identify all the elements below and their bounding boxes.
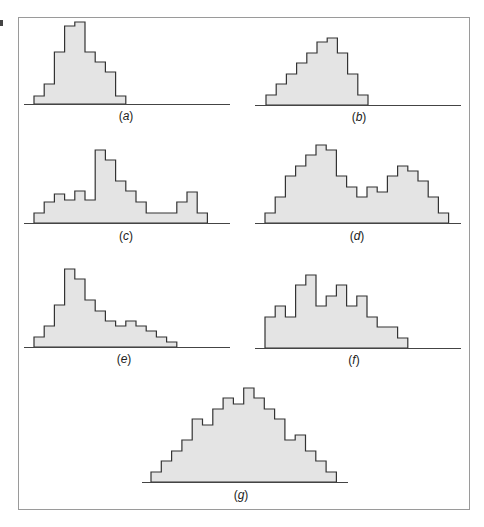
panel-label-g: (g)	[234, 488, 249, 502]
histogram-panels	[0, 0, 484, 527]
histogram-bars	[151, 388, 336, 482]
histogram-g	[142, 388, 348, 483]
histogram-bars	[34, 150, 207, 223]
histogram-f	[255, 275, 461, 349]
panel-label-c: (c)	[119, 229, 133, 243]
histogram-bars	[34, 269, 177, 347]
panel-label-f: (f)	[348, 353, 359, 367]
histogram-bars	[34, 22, 126, 104]
panel-label-b: (b)	[352, 110, 367, 124]
panel-label-a: (a)	[119, 109, 134, 123]
histogram-bars	[266, 38, 368, 105]
histogram-c	[24, 150, 230, 224]
histogram-bars	[265, 145, 449, 223]
histogram-e	[24, 269, 230, 348]
histogram-b	[255, 38, 461, 106]
panel-label-e: (e)	[117, 352, 132, 366]
panel-label-d: (d)	[350, 229, 365, 243]
histogram-d	[255, 145, 461, 224]
histogram-bars	[265, 275, 408, 348]
histogram-a	[24, 22, 230, 105]
